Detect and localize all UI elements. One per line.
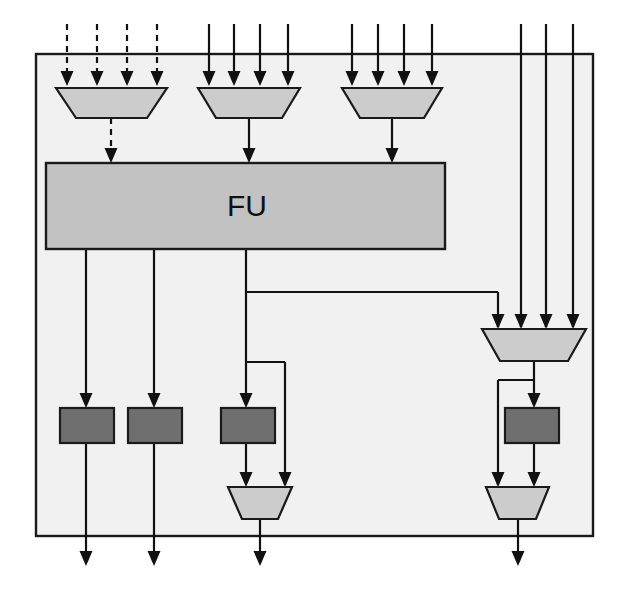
input-mux-1[interactable] [56,88,167,118]
outer-frame [36,54,593,536]
register-1[interactable] [60,408,114,443]
right-mux[interactable] [482,329,586,361]
outer-frame-layer [36,54,593,536]
fu-label: FU [227,189,267,222]
output-arrow-3-head [254,551,267,566]
register-2[interactable] [128,408,182,443]
output-arrow-4-head [512,551,525,566]
output-arrow-2-head [148,551,161,566]
output-arrow-1-head [80,551,93,566]
label-layer: FU [227,189,267,222]
input-mux-2[interactable] [198,88,300,118]
register-4[interactable] [505,408,559,443]
input-mux-3[interactable] [342,88,442,118]
datapath-diagram: FU [0,0,626,590]
diagram-canvas: FU [0,0,626,590]
register-3[interactable] [221,408,275,443]
